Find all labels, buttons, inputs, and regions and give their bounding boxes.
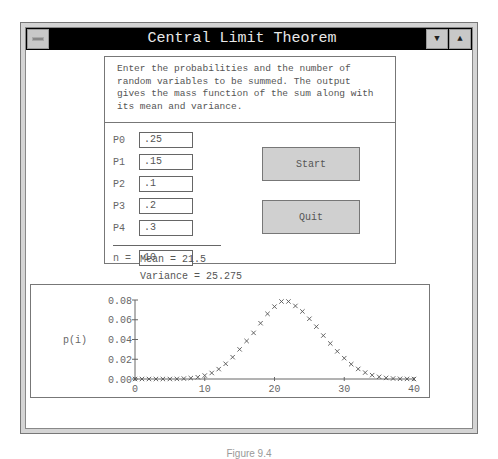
p1-label: P1 [113, 157, 139, 168]
p1-row: P1 .15 [113, 153, 193, 171]
triangle-down-icon: ▼ [434, 34, 439, 44]
system-menu-button[interactable] [27, 29, 49, 49]
p1-input[interactable]: .15 [139, 154, 193, 170]
data-point-x-marker [265, 312, 269, 316]
x-tick-label: 10 [199, 384, 211, 395]
divider [113, 245, 221, 246]
data-point-x-marker [307, 317, 311, 321]
figure-caption: Figure 9.4 [0, 448, 498, 459]
p3-input[interactable]: .2 [139, 198, 193, 214]
mass-function-chart: 0.000.020.040.060.08010203040p(i)i [31, 285, 429, 397]
data-point-x-marker [321, 333, 325, 337]
data-point-x-marker [370, 373, 374, 377]
data-point-x-marker [223, 362, 227, 366]
data-point-x-marker [363, 370, 367, 374]
p4-input[interactable]: .3 [139, 220, 193, 236]
y-tick-label: 0.04 [108, 335, 132, 346]
data-point-x-marker [244, 339, 248, 343]
data-point-x-marker [189, 376, 193, 380]
p3-row: P3 .2 [113, 197, 193, 215]
data-point-x-marker [356, 367, 360, 371]
x-tick-label: 0 [132, 384, 138, 395]
p4-label: P4 [113, 223, 139, 234]
data-point-x-marker [258, 321, 262, 325]
n-label: n = [113, 253, 139, 264]
window-title: Central Limit Theorem [62, 28, 422, 50]
chart-panel: 0.000.020.040.060.08010203040p(i)i [30, 284, 430, 398]
data-point-x-marker [230, 355, 234, 359]
y-tick-label: 0.06 [108, 315, 132, 326]
input-panel: Enter the probabilities and the number o… [104, 56, 396, 264]
data-point-x-marker [377, 375, 381, 379]
minimize-button[interactable]: ▼ [426, 29, 448, 49]
data-point-x-marker [342, 356, 346, 360]
data-point-x-marker [251, 331, 255, 335]
title-bar[interactable]: Central Limit Theorem ▼ ▲ [26, 28, 472, 50]
data-point-x-marker [328, 341, 332, 345]
data-point-x-marker [335, 349, 339, 353]
data-point-x-marker [210, 371, 214, 375]
p2-label: P2 [113, 179, 139, 190]
data-point-x-marker [279, 299, 283, 303]
x-tick-label: 20 [268, 384, 280, 395]
p4-row: P4 .3 [113, 219, 193, 237]
y-axis-label: p(i) [63, 335, 87, 346]
y-tick-label: 0.02 [108, 355, 132, 366]
p0-row: P0 .25 [113, 131, 193, 149]
triangle-up-icon: ▲ [457, 34, 462, 44]
data-point-x-marker [272, 304, 276, 308]
data-point-x-marker [217, 367, 221, 371]
data-point-x-marker [300, 309, 304, 313]
data-point-x-marker [293, 304, 297, 308]
quit-button[interactable]: Quit [262, 200, 360, 234]
y-tick-label: 0.08 [108, 296, 132, 307]
data-point-x-marker [286, 299, 290, 303]
data-point-x-marker [349, 362, 353, 366]
x-tick-label: 40 [408, 384, 420, 395]
mean-text: Mean = 21.5 [140, 254, 206, 265]
y-tick-label: 0.00 [108, 375, 132, 386]
p3-label: P3 [113, 201, 139, 212]
x-tick-label: 30 [338, 384, 350, 395]
p0-input[interactable]: .25 [139, 132, 193, 148]
start-button[interactable]: Start [262, 147, 360, 181]
data-point-x-marker [237, 347, 241, 351]
p2-input[interactable]: .1 [139, 176, 193, 192]
p0-label: P0 [113, 135, 139, 146]
maximize-button[interactable]: ▲ [449, 29, 471, 49]
instructions-text: Enter the probabilities and the number o… [105, 57, 395, 123]
data-point-x-marker [314, 324, 318, 328]
variance-text: Variance = 25.275 [140, 271, 242, 282]
p2-row: P2 .1 [113, 175, 193, 193]
minus-icon [32, 37, 44, 41]
